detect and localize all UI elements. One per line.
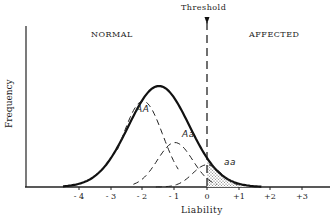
x-tick-label: - 3 [106,192,116,201]
threshold-arrow-icon [205,17,210,24]
total-distribution-curve [63,86,261,187]
Aa-distribution-curve [133,143,216,185]
region-normal-label: NORMAL [91,30,133,39]
threshold-label: Threshold [181,3,226,12]
x-tick-label: 0 [204,192,209,201]
x-axis-label: Liability [181,205,223,215]
x-tick-label: +2 [264,192,276,201]
x-tick-label: - 4 [74,192,84,201]
genotype-Aa-label: Aa [182,129,195,139]
genotype-aa-label: aa [224,157,236,167]
region-affected-label: AFFECTED [249,30,299,39]
genotype-AA-label: AA [136,104,149,114]
x-tick-label: - 2 [137,192,147,201]
x-tick-label: +3 [296,192,308,201]
y-axis-label: Frequency [4,79,14,128]
x-tick-label: - 1 [169,192,179,201]
x-tick-label: +1 [233,192,245,201]
